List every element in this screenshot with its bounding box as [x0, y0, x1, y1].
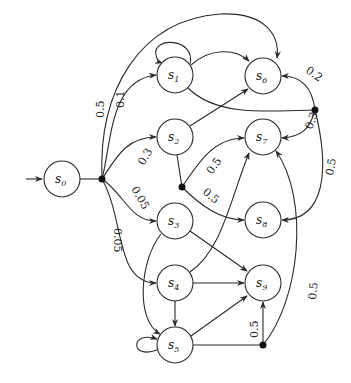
edge-s5-s9 [191, 296, 247, 336]
branch-point-b2 [179, 184, 186, 191]
markov-chain-diagram: s0 s1 s2 s3 s4 s5 s6 s7 s8 s9 0.5 0.1 0.… [0, 0, 351, 383]
prob-b3-s7: 0.5 [306, 282, 320, 301]
prob-b0-s6: 0.5 [94, 101, 107, 119]
edge-b1-s6 [282, 76, 315, 110]
prob-b2-s7: 0.5 [204, 155, 225, 177]
prob-b1-s7: 0.3 [303, 110, 321, 131]
state-s7: s7 [245, 119, 281, 155]
prob-b2-s8: 0.5 [200, 185, 222, 206]
prob-b1-s8: 0.5 [323, 157, 339, 176]
edge-b0-s4 [102, 179, 156, 283]
edge-s1-s6 [191, 52, 249, 65]
state-s2: s2 [157, 119, 193, 155]
prob-b0-s4: 0.05 [111, 228, 124, 253]
prob-b1-s6: 0.2 [303, 64, 325, 85]
edge-s5-s5 [137, 337, 157, 352]
state-s0: s0 [44, 161, 80, 197]
prob-b0-s3: 0.05 [128, 184, 152, 212]
state-s8: s8 [245, 202, 281, 238]
edge-b3-s7 [263, 151, 297, 345]
state-s4: s4 [157, 265, 193, 301]
edge-s2-s6 [190, 89, 248, 126]
state-s9: s9 [245, 265, 281, 301]
prob-b0-s2: 0.3 [135, 146, 155, 168]
state-s1: s1 [157, 57, 193, 93]
edge-b0-s6 [102, 14, 278, 179]
state-s3: s3 [157, 203, 193, 239]
state-s6: s6 [245, 58, 281, 94]
prob-b0-s1: 0.1 [114, 91, 127, 109]
edge-s1-b1 [188, 88, 315, 111]
state-s5: s5 [157, 327, 193, 363]
prob-b3-s9: 0.5 [248, 321, 261, 339]
edge-s4-s7 [190, 153, 249, 272]
branch-point-b3 [260, 342, 267, 349]
branch-point-b0 [99, 176, 106, 183]
edge-s2-b2 [177, 155, 182, 187]
